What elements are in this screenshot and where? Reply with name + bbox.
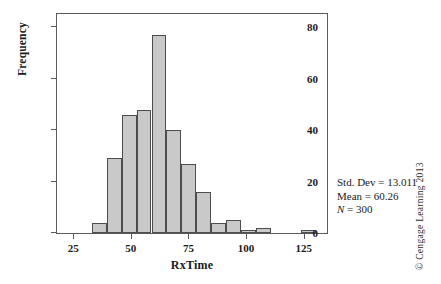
y-axis-tick [51, 181, 57, 182]
x-axis-tick-label: 75 [183, 242, 194, 254]
y-axis-tick [51, 129, 57, 130]
x-axis-tick [131, 233, 132, 239]
histogram-bar [256, 228, 271, 233]
histogram-figure: 020406080255075100125 RxTime Frequency S… [0, 0, 441, 284]
bars-layer [57, 14, 327, 233]
histogram-bar [196, 192, 211, 233]
histogram-bar [107, 158, 122, 233]
x-axis-tick [304, 233, 305, 239]
plot-area: 020406080255075100125 [56, 13, 328, 234]
statistics-annotation: Std. Dev = 13.011 Mean = 60.26 N = 300 [337, 176, 417, 217]
x-axis-tick-label: 125 [295, 242, 312, 254]
n-value: = 300 [344, 203, 372, 215]
y-axis-tick [51, 78, 57, 79]
histogram-bar [181, 164, 196, 233]
y-axis-tick-label: 40 [307, 124, 318, 136]
y-axis-tick-label: 80 [307, 21, 318, 33]
x-axis-tick [188, 233, 189, 239]
sample-size-text: N = 300 [337, 203, 417, 217]
histogram-bar [241, 230, 256, 233]
histogram-bar [92, 223, 107, 233]
y-axis-tick-label: 0 [313, 227, 319, 239]
x-axis-tick-label: 50 [125, 242, 136, 254]
histogram-bar [152, 35, 167, 233]
histogram-bar [122, 115, 137, 233]
histogram-bar [166, 130, 181, 233]
y-axis-title: Frequency [16, 62, 28, 76]
x-axis-tick-label: 25 [68, 242, 79, 254]
std-dev-text: Std. Dev = 13.011 [337, 176, 417, 190]
histogram-bar [226, 220, 241, 233]
y-axis-tick [51, 232, 57, 233]
y-axis-tick-label: 20 [307, 176, 318, 188]
y-axis-tick [51, 26, 57, 27]
x-axis-tick [73, 233, 74, 239]
mean-text: Mean = 60.26 [337, 190, 417, 204]
y-axis-tick-label: 60 [307, 73, 318, 85]
x-axis-title: RxTime [56, 258, 328, 273]
histogram-bar [211, 223, 226, 233]
x-axis-tick [246, 233, 247, 239]
copyright-notice: © Cengage Learning 2013 [415, 162, 425, 270]
histogram-bar [137, 110, 152, 233]
x-axis-tick-label: 100 [238, 242, 255, 254]
